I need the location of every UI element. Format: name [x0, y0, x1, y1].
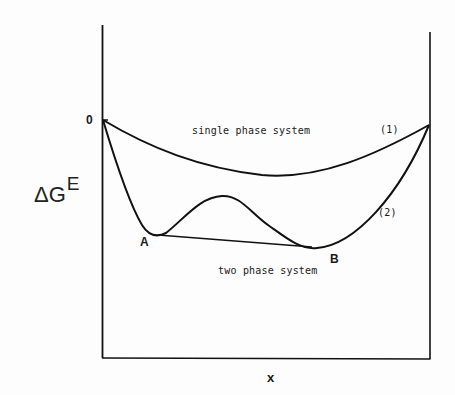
single-phase-label: single phase system: [192, 126, 310, 136]
y-axis-label: ΔGE: [34, 178, 80, 206]
curve-2-two-phase: [103, 120, 429, 248]
origin-label: 0: [86, 114, 93, 126]
two-phase-label: two phase system: [218, 266, 318, 276]
curve-1-label: (1): [380, 125, 399, 135]
bottom-axis: [102, 358, 431, 359]
curve-2-label: (2): [378, 208, 397, 218]
y-axis-label-base: ΔG: [34, 182, 66, 207]
point-a-label: A: [140, 236, 149, 248]
common-tangent-line: [158, 235, 312, 247]
y-axis-label-superscript: E: [67, 173, 80, 194]
point-b-label: B: [330, 253, 339, 265]
gibbs-energy-diagram: 0 ΔGE single phase system (1) (2) A B tw…: [0, 0, 455, 395]
x-axis-label: x: [267, 371, 274, 384]
